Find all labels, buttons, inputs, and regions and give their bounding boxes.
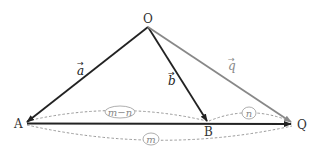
- arc-AQ: [27, 125, 292, 140]
- ratio-AB-label: m−n: [108, 107, 132, 118]
- point-Q-label: Q: [297, 118, 307, 132]
- vector-diagram: O A B Q a → b → q → m−n n m: [0, 0, 317, 153]
- diagram-canvas: O A B Q a → b → q → m−n n m: [0, 0, 317, 153]
- point-A-label: A: [13, 117, 23, 131]
- vector-a-arrow-icon: →: [77, 59, 84, 68]
- vector-b-arrow-icon: →: [168, 69, 175, 78]
- segment-AQ: [27, 124, 291, 125]
- vector-b: [148, 27, 207, 121]
- point-B-label: B: [204, 125, 213, 139]
- point-O-label: O: [143, 12, 153, 26]
- vector-q-arrow-icon: →: [228, 55, 235, 64]
- ratio-AQ-label: m: [146, 134, 155, 145]
- ratio-BQ-label: n: [246, 108, 252, 119]
